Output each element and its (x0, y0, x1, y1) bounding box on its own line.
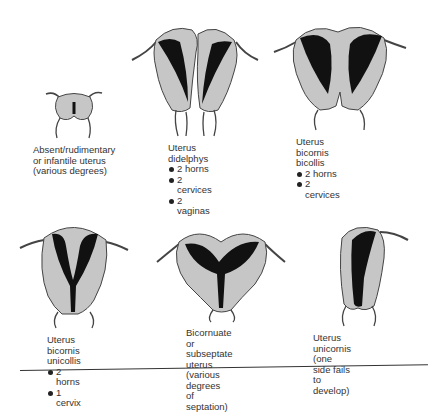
caption-line: Bicornuate or (186, 328, 232, 349)
caption-bicornuate-subseptate: Bicornuate or subseptate uterus (various… (186, 328, 232, 412)
caption-line: (various degrees) (33, 166, 115, 177)
bullet-item: 2 horns (296, 169, 340, 180)
bullet-item: 1 cervix (47, 388, 81, 409)
caption-title: Uterus bicornis bicollis (296, 137, 340, 169)
caption-title: Uterus didelphys (168, 143, 212, 164)
bullet-item: 2 horns (168, 164, 212, 175)
caption-line: (various degrees (186, 370, 232, 391)
caption-line: to develop) (313, 375, 351, 396)
caption-line: Absent/rudimentary (33, 145, 115, 156)
bullet-item: 2 vaginas (168, 196, 212, 217)
unicornis-illustration (328, 218, 414, 328)
caption-line: Uterus bicornis (47, 335, 81, 356)
caption-bicornis-bicollis: Uterus bicornis bicollis 2 horns 2 cervi… (296, 137, 340, 200)
caption-absent-rudimentary: Absent/rudimentary or infantile uterus (… (33, 145, 115, 177)
bullet-item: 2 cervices (296, 179, 340, 200)
rudimentary-uterus-illustration (44, 88, 104, 140)
caption-line: Uterus unicornis (313, 333, 351, 354)
caption-line: of septation) (186, 391, 232, 412)
bullet-item: 2 cervices (168, 175, 212, 196)
bicornis-bicollis-illustration (272, 18, 408, 130)
bicornis-unicollis-illustration (18, 220, 130, 330)
caption-bicornis-unicollis: Uterus bicornis unicollis 2 horns 1 cerv… (47, 335, 81, 409)
caption-didelphys: Uterus didelphys 2 horns 2 cervices 2 va… (168, 143, 212, 217)
bicornuate-subseptate-illustration (155, 222, 287, 322)
didelphys-illustration (130, 22, 260, 137)
caption-line: unicollis (47, 356, 81, 367)
